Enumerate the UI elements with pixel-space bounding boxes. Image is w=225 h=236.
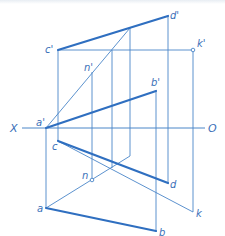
label-a-prime: a' — [36, 117, 45, 128]
label-b: b — [159, 227, 165, 236]
label-c: c — [52, 141, 58, 152]
label-k: k — [196, 208, 203, 219]
label-d: d — [170, 179, 177, 190]
segment-a-prime-b-prime — [46, 91, 156, 128]
line-c-k — [58, 141, 193, 212]
axis-label-x: X — [9, 122, 18, 135]
label-a: a — [37, 203, 43, 214]
label-n: n — [82, 170, 88, 181]
projection-diagram: X O a' b' c' d' k' n' a b c d k n — [0, 0, 225, 236]
segment-a-b — [46, 208, 156, 231]
point-k-prime-marker — [191, 48, 195, 52]
label-k-prime: k' — [197, 38, 206, 49]
point-n-marker — [90, 178, 94, 182]
label-d-prime: d' — [170, 10, 179, 21]
label-n-prime: n' — [84, 62, 93, 73]
axis-label-o: O — [208, 122, 217, 135]
segment-c-prime-d-prime — [58, 16, 168, 50]
label-c-prime: c' — [45, 44, 53, 55]
label-b-prime: b' — [151, 77, 160, 88]
segment-c-d — [58, 141, 168, 183]
